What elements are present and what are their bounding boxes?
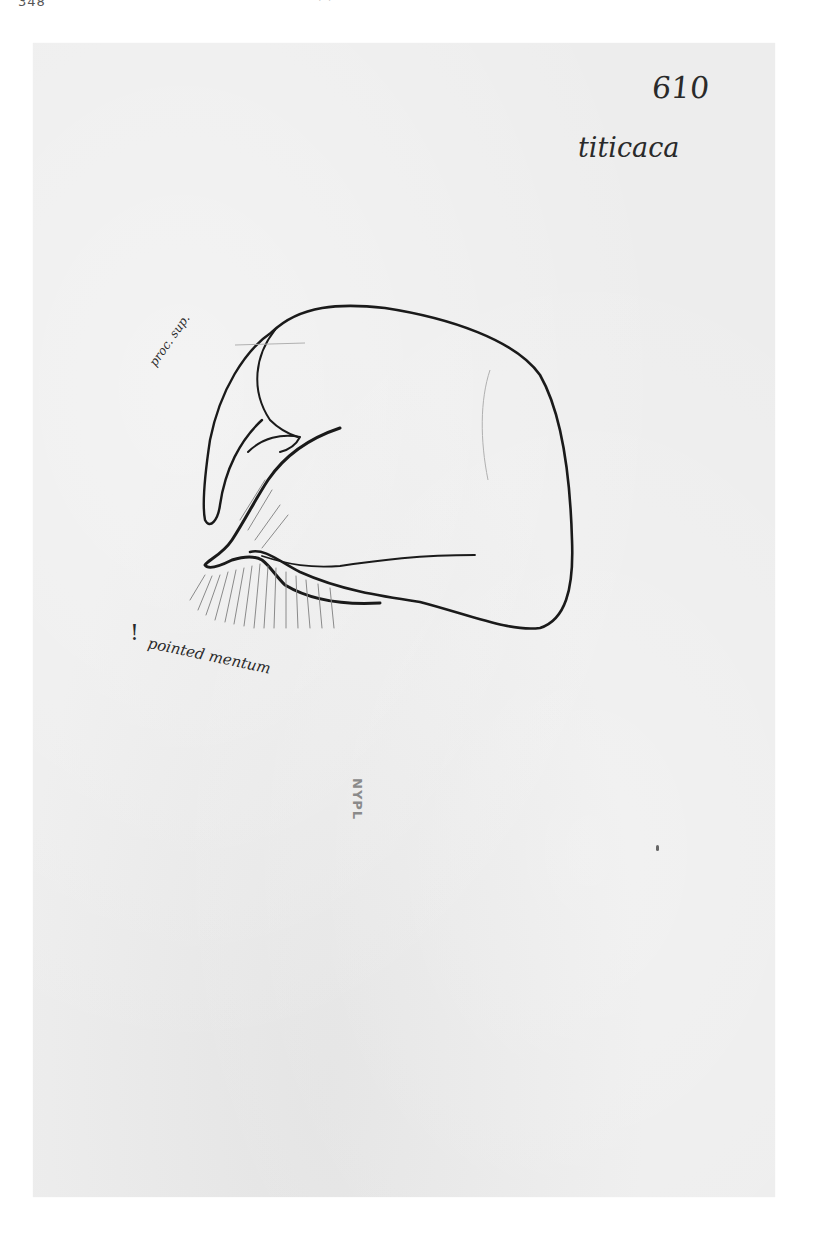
exclamation-mark: ! bbox=[130, 620, 139, 645]
bristles bbox=[190, 480, 334, 628]
superior-process bbox=[204, 332, 272, 524]
specimen-number: 610 bbox=[650, 70, 711, 105]
capsule-outline bbox=[250, 306, 572, 629]
nypl-stamp: NYPL bbox=[350, 778, 365, 820]
ink-speck bbox=[656, 845, 659, 851]
inner-line bbox=[262, 555, 475, 567]
pointed-mentum bbox=[205, 428, 380, 603]
species-name: titicaca bbox=[578, 132, 679, 163]
small-lobe bbox=[248, 436, 300, 452]
inner-fold bbox=[257, 330, 298, 437]
pencil-guides bbox=[235, 343, 490, 480]
genitalia-drawing bbox=[0, 0, 817, 1240]
